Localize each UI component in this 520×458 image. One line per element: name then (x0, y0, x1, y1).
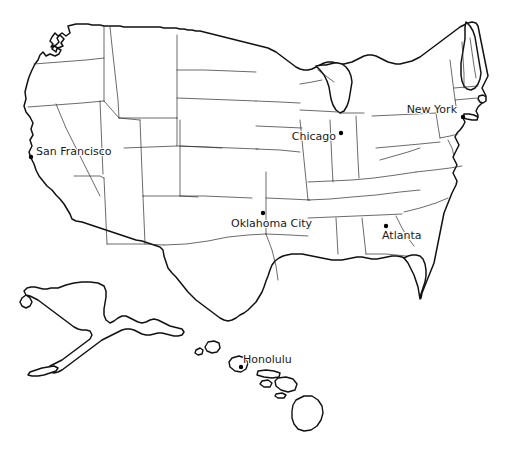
city-dot-san-francisco[interactable] (29, 155, 33, 159)
city-dot-atlanta[interactable] (384, 224, 388, 228)
cape-cod (478, 95, 486, 103)
city-label-san-francisco: San Francisco (36, 145, 112, 158)
city-label-atlanta: Atlanta (382, 229, 421, 242)
city-marker-san-francisco[interactable]: San Francisco (29, 145, 112, 159)
city-label-oklahoma-city: Oklahoma City (231, 217, 313, 230)
city-dot-oklahoma-city[interactable] (261, 211, 265, 215)
city-label-new-york: New York (407, 103, 458, 116)
hawaii-kahoolawe (275, 393, 286, 398)
hawaii-lanai (260, 380, 272, 387)
city-dot-new-york[interactable] (461, 115, 465, 119)
city-label-chicago: Chicago (292, 130, 336, 143)
hawaii-kauai (205, 341, 220, 353)
city-dot-chicago[interactable] (339, 131, 343, 135)
us-map-svg: San Francisco Chicago New York Oklahoma … (0, 0, 520, 458)
city-label-honolulu: Honolulu (243, 353, 292, 366)
city-marker-chicago[interactable]: Chicago (292, 130, 343, 143)
us-map-container: San Francisco Chicago New York Oklahoma … (0, 0, 520, 458)
